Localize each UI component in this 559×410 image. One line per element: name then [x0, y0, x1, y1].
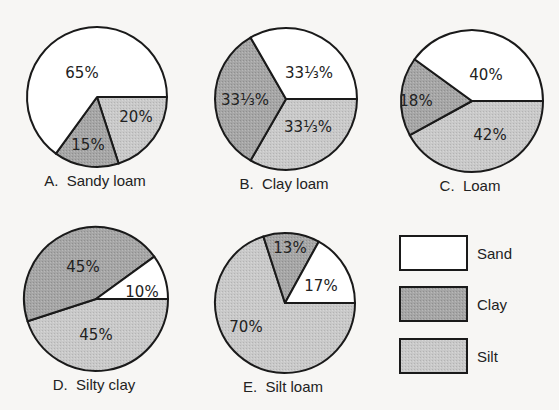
soil-texture-pie-charts: 20%15%65%A. Sandy loam33⅓%33⅓%33⅓%B. Cla…: [0, 0, 559, 410]
slice-label-clay: 18%: [399, 92, 432, 110]
pie-a: 20%15%65%A. Sandy loam: [27, 27, 167, 189]
pie-e: 70%13%17%E. Silt loam: [215, 233, 355, 395]
slice-label-silt: 70%: [229, 318, 262, 336]
legend-label-clay: Clay: [477, 296, 508, 313]
pie-caption: A. Sandy loam: [44, 172, 146, 189]
slice-label-sand: 10%: [125, 283, 158, 301]
legend-label-sand: Sand: [477, 245, 512, 262]
pie-caption: B. Clay loam: [239, 175, 328, 192]
legend-swatch-sand: [400, 236, 467, 270]
slice-label-sand: 65%: [65, 64, 98, 82]
slice-label-clay: 33⅓%: [221, 91, 269, 109]
slice-label-sand: 40%: [469, 66, 502, 84]
pie-caption: C. Loam: [440, 177, 501, 194]
pie-c: 42%18%40%C. Loam: [399, 30, 543, 194]
legend-swatch-silt: [400, 339, 467, 373]
slice-label-sand: 17%: [304, 277, 337, 295]
slice-label-silt: 45%: [79, 326, 112, 344]
slice-label-sand: 33⅓%: [285, 64, 333, 82]
legend-swatch-clay: [400, 287, 467, 321]
slice-label-clay: 45%: [66, 258, 99, 276]
legend: SandClaySilt: [400, 236, 512, 373]
pie-caption: E. Silt loam: [243, 378, 323, 395]
slice-label-silt: 42%: [473, 126, 506, 144]
pie-d: 45%45%10%D. Silty clay: [24, 227, 168, 393]
slice-label-silt: 20%: [119, 108, 152, 126]
slice-label-silt: 33⅓%: [284, 118, 332, 136]
legend-label-silt: Silt: [477, 348, 499, 365]
pie-b: 33⅓%33⅓%33⅓%B. Clay loam: [215, 28, 357, 192]
pie-caption: D. Silty clay: [53, 376, 136, 393]
slice-label-clay: 15%: [71, 136, 104, 154]
slice-label-clay: 13%: [273, 239, 306, 257]
